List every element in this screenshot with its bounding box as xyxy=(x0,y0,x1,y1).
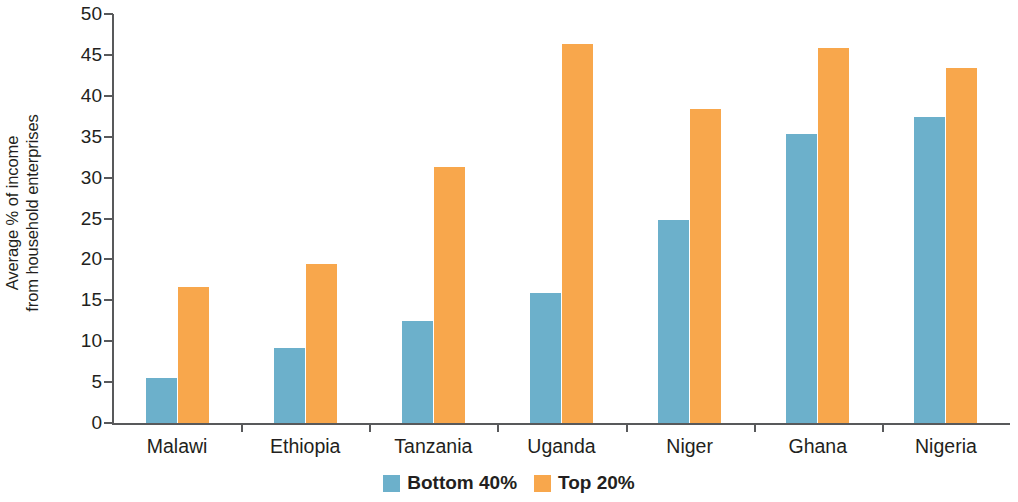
bar-uganda-bottom40 xyxy=(530,293,561,423)
y-axis-tick-label: 35 xyxy=(81,126,102,147)
x-axis-group-tick xyxy=(754,423,756,432)
legend-swatch-icon xyxy=(534,475,551,492)
y-axis-tick-label: 25 xyxy=(81,208,102,229)
y-axis-tick-mark xyxy=(104,218,113,220)
y-axis-tick-mark xyxy=(104,422,113,424)
x-axis-label-uganda: Uganda xyxy=(499,433,624,459)
bar-ethiopia-top20 xyxy=(306,264,337,424)
x-axis-label-nigeria: Nigeria xyxy=(883,433,1008,459)
y-axis-tick-mark xyxy=(104,299,113,301)
x-axis-label-ethiopia: Ethiopia xyxy=(243,433,368,459)
bar-ghana-bottom40 xyxy=(786,134,817,423)
bar-ghana-top20 xyxy=(818,48,849,423)
x-axis-group-tick xyxy=(882,423,884,432)
y-axis-tick-label: 15 xyxy=(81,289,102,310)
y-axis-tick-label: 5 xyxy=(91,371,102,392)
bar-uganda-top20 xyxy=(562,44,593,423)
x-axis-label-niger: Niger xyxy=(627,433,752,459)
y-axis-tick-label: 20 xyxy=(81,248,102,269)
y-axis-tick-label: 40 xyxy=(81,85,102,106)
x-axis-group-tick xyxy=(626,423,628,432)
y-axis-title-line-2: from household enterprises xyxy=(22,114,42,311)
bar-niger-top20 xyxy=(690,109,721,423)
x-axis-line xyxy=(112,423,1010,425)
y-axis-tick-label: 30 xyxy=(81,167,102,188)
y-axis-tick-mark xyxy=(104,13,113,15)
bar-nigeria-top20 xyxy=(946,68,977,423)
y-axis-tick-label: 10 xyxy=(81,330,102,351)
chart-legend: Bottom 40%Top 20% xyxy=(0,473,1018,493)
y-axis-title-line-1: Average % of income xyxy=(2,114,22,311)
legend-item-bottom40[interactable]: Bottom 40% xyxy=(383,473,517,493)
x-axis-label-malawi: Malawi xyxy=(115,433,240,459)
y-axis-title: Average % of income from household enter… xyxy=(0,0,44,425)
bar-nigeria-bottom40 xyxy=(914,117,945,423)
legend-label: Top 20% xyxy=(558,473,635,493)
x-axis-group-tick xyxy=(241,423,243,432)
bar-chart: Average % of income from household enter… xyxy=(0,0,1018,502)
bar-malawi-bottom40 xyxy=(146,378,177,423)
y-axis-tick-label: 45 xyxy=(81,44,102,65)
y-axis-tick-label: 50 xyxy=(81,3,102,24)
plot-area: 05101520253035404550 MalawiEthiopiaTanza… xyxy=(113,14,1010,423)
y-axis-tick-mark xyxy=(104,95,113,97)
y-axis-tick-mark xyxy=(104,340,113,342)
x-axis-group-tick xyxy=(497,423,499,432)
x-axis-label-tanzania: Tanzania xyxy=(371,433,496,459)
y-axis-tick-mark xyxy=(104,136,113,138)
bar-ethiopia-bottom40 xyxy=(274,348,305,423)
legend-label: Bottom 40% xyxy=(407,473,517,493)
x-axis-group-tick xyxy=(369,423,371,432)
bar-tanzania-top20 xyxy=(434,167,465,423)
x-axis-label-ghana: Ghana xyxy=(755,433,880,459)
legend-item-top20[interactable]: Top 20% xyxy=(534,473,635,493)
bar-niger-bottom40 xyxy=(658,220,689,423)
y-axis-tick-mark xyxy=(104,54,113,56)
y-axis-tick-label: 0 xyxy=(91,412,102,433)
y-axis-tick-mark xyxy=(104,381,113,383)
y-axis-tick-mark xyxy=(104,177,113,179)
legend-swatch-icon xyxy=(383,475,400,492)
bar-malawi-top20 xyxy=(178,287,209,423)
bar-tanzania-bottom40 xyxy=(402,321,433,423)
y-axis-tick-mark xyxy=(104,258,113,260)
